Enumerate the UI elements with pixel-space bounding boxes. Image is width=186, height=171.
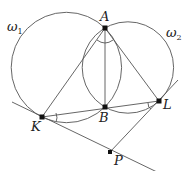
point-p bbox=[108, 150, 112, 154]
label-k: K bbox=[30, 119, 42, 134]
angle-arc-k bbox=[56, 113, 57, 122]
segment-ak bbox=[42, 28, 105, 117]
line-lp bbox=[110, 80, 178, 152]
label-omega2: ω2 bbox=[166, 25, 182, 42]
segment-al bbox=[105, 28, 159, 101]
label-omega1: ω1 bbox=[7, 19, 23, 36]
label-p: P bbox=[113, 153, 123, 168]
geometry-diagram: A B K L P ω1 ω2 bbox=[0, 0, 186, 171]
label-l: L bbox=[162, 97, 172, 112]
label-b: B bbox=[98, 110, 109, 125]
label-a: A bbox=[99, 9, 109, 24]
point-a bbox=[103, 26, 108, 31]
point-b bbox=[103, 105, 108, 110]
point-l bbox=[157, 99, 162, 104]
